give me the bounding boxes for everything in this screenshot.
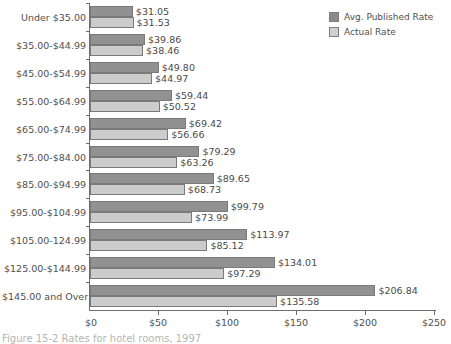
bar-published-rate bbox=[90, 229, 247, 240]
category-label: $75.00-$84.00 bbox=[2, 152, 86, 163]
bar-group: $206.84$135.58 bbox=[90, 285, 435, 307]
bar-group: $79.29$63.26 bbox=[90, 146, 435, 168]
y-axis-tick bbox=[86, 87, 89, 88]
bar-value-actual: $50.52 bbox=[160, 101, 196, 112]
bar-actual-rate bbox=[90, 45, 143, 56]
bar-group: $89.65$68.73 bbox=[90, 173, 435, 195]
bar-actual-rate bbox=[90, 17, 134, 28]
bar-group: $134.01$97.29 bbox=[90, 257, 435, 279]
x-axis-tick bbox=[365, 311, 366, 315]
x-axis-tick bbox=[434, 311, 435, 315]
y-axis-tick bbox=[86, 198, 89, 199]
y-axis-tick bbox=[86, 226, 89, 227]
y-axis-tick bbox=[86, 170, 89, 171]
bar-actual-rate bbox=[90, 157, 177, 168]
category-label: $55.00-$64.99 bbox=[2, 96, 86, 107]
category-axis-labels: Under $35.00$35.00-$44.99$45.00-$54.99$5… bbox=[0, 3, 86, 310]
bar-value-published: $206.84 bbox=[375, 285, 417, 296]
bar-value-published: $59.44 bbox=[172, 90, 208, 101]
y-axis-tick bbox=[86, 143, 89, 144]
bar-published-rate bbox=[90, 62, 159, 73]
bar-actual-rate bbox=[90, 212, 192, 223]
bar-actual-rate bbox=[90, 101, 160, 112]
bar-value-actual: $31.53 bbox=[134, 17, 170, 28]
bar-published-rate bbox=[90, 34, 145, 45]
bar-value-published: $31.05 bbox=[133, 6, 169, 17]
bar-group: $99.79$73.99 bbox=[90, 201, 435, 223]
bar-actual-rate bbox=[90, 240, 207, 251]
bar-value-actual: $68.73 bbox=[185, 184, 221, 195]
bar-value-actual: $85.12 bbox=[207, 240, 243, 251]
bar-group: $113.97$85.12 bbox=[90, 229, 435, 251]
y-axis-tick bbox=[86, 59, 89, 60]
category-label: $85.00-$94.99 bbox=[2, 179, 86, 190]
bar-published-rate bbox=[90, 118, 186, 129]
bar-value-actual: $56.66 bbox=[168, 129, 204, 140]
bar-group: $49.80$44.97 bbox=[90, 62, 435, 84]
category-label: $125.00-$144.99 bbox=[2, 263, 86, 274]
bar-value-published: $69.42 bbox=[186, 118, 222, 129]
x-axis-tick-label: $200 bbox=[353, 317, 377, 328]
bar-value-published: $113.97 bbox=[247, 229, 289, 240]
x-axis-tick-label: $250 bbox=[422, 317, 446, 328]
bar-value-published: $134.01 bbox=[275, 257, 317, 268]
bar-actual-rate bbox=[90, 73, 152, 84]
x-axis-tick-label: $50 bbox=[149, 317, 167, 328]
bar-value-actual: $135.58 bbox=[277, 296, 319, 307]
bar-value-actual: $73.99 bbox=[192, 212, 228, 223]
y-axis-tick bbox=[86, 254, 89, 255]
bar-group: $39.86$38.46 bbox=[90, 34, 435, 56]
bar-published-rate bbox=[90, 285, 375, 296]
x-axis-line bbox=[89, 310, 436, 311]
bar-value-published: $49.80 bbox=[159, 62, 195, 73]
bar-group: $69.42$56.66 bbox=[90, 118, 435, 140]
y-axis-tick bbox=[86, 3, 89, 4]
category-label: $45.00-$54.99 bbox=[2, 68, 86, 79]
bar-chart: Avg. Published Rate Actual Rate Under $3… bbox=[0, 0, 451, 344]
y-axis-tick bbox=[86, 115, 89, 116]
figure-caption: Figure 15-2 Rates for hotel rooms, 1997 bbox=[2, 333, 201, 344]
x-axis-tick-label: $0 bbox=[85, 317, 97, 328]
bar-actual-rate bbox=[90, 184, 185, 195]
bar-value-published: $79.29 bbox=[199, 146, 235, 157]
x-axis-tick bbox=[296, 311, 297, 315]
category-label: $35.00-$44.99 bbox=[2, 40, 86, 51]
x-axis-tick-label: $150 bbox=[284, 317, 308, 328]
bar-group: $59.44$50.52 bbox=[90, 90, 435, 112]
bar-group: $31.05$31.53 bbox=[90, 6, 435, 28]
bar-value-published: $89.65 bbox=[214, 173, 250, 184]
bar-value-actual: $38.46 bbox=[143, 45, 179, 56]
bar-value-actual: $97.29 bbox=[224, 268, 260, 279]
x-axis-tick bbox=[227, 311, 228, 315]
category-label: $65.00-$74.99 bbox=[2, 124, 86, 135]
bar-published-rate bbox=[90, 257, 275, 268]
category-label: $145.00 and Over bbox=[2, 291, 86, 302]
bar-actual-rate bbox=[90, 129, 168, 140]
bar-value-published: $99.79 bbox=[228, 201, 264, 212]
bar-published-rate bbox=[90, 146, 199, 157]
bar-published-rate bbox=[90, 173, 214, 184]
bar-published-rate bbox=[90, 90, 172, 101]
bar-value-actual: $44.97 bbox=[152, 73, 188, 84]
bar-value-published: $39.86 bbox=[145, 34, 181, 45]
y-axis-tick bbox=[86, 31, 89, 32]
x-axis-tick-label: $100 bbox=[215, 317, 239, 328]
bar-published-rate bbox=[90, 201, 228, 212]
bar-actual-rate bbox=[90, 268, 224, 279]
plot-area: $31.05$31.53$39.86$38.46$49.80$44.97$59.… bbox=[89, 3, 435, 310]
category-label: Under $35.00 bbox=[2, 12, 86, 23]
y-axis-tick bbox=[86, 282, 89, 283]
bar-published-rate bbox=[90, 6, 133, 17]
bar-value-actual: $63.26 bbox=[177, 157, 213, 168]
category-label: $95.00-$104.99 bbox=[2, 207, 86, 218]
category-label: $105.00-124.99 bbox=[2, 235, 86, 246]
x-axis-tick bbox=[158, 311, 159, 315]
bar-actual-rate bbox=[90, 296, 277, 307]
